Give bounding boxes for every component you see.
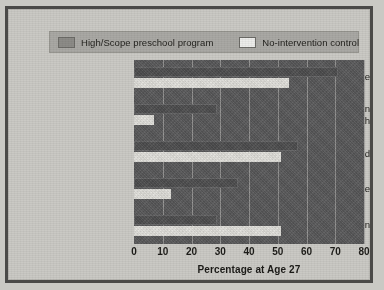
legend-entry-control: No-intervention control bbox=[239, 37, 359, 48]
x-tick-label: 80 bbox=[358, 246, 369, 257]
bar-program bbox=[134, 178, 238, 188]
x-tick-label: 60 bbox=[301, 246, 312, 257]
x-tick-label: 10 bbox=[157, 246, 168, 257]
x-tick-label: 50 bbox=[272, 246, 283, 257]
bar-control bbox=[134, 189, 171, 199]
bar-group bbox=[134, 134, 364, 171]
bar-control bbox=[134, 226, 281, 236]
gridline bbox=[364, 60, 365, 244]
chart-legend: High/Scope preschool program No-interven… bbox=[49, 31, 359, 53]
chart-figure: High/Scope preschool program No-interven… bbox=[0, 0, 384, 290]
x-tick-label: 20 bbox=[186, 246, 197, 257]
bar-group bbox=[134, 170, 364, 207]
bar-program bbox=[134, 215, 217, 225]
bar-program bbox=[134, 67, 338, 77]
bar-control bbox=[134, 78, 289, 88]
x-axis-ticks: 01020304050607080 bbox=[134, 246, 364, 260]
chart-frame: High/Scope preschool program No-interven… bbox=[5, 6, 373, 283]
plot-area bbox=[134, 60, 364, 244]
bar-program bbox=[134, 104, 217, 114]
bar-group bbox=[134, 97, 364, 134]
legend-label-control: No-intervention control bbox=[262, 37, 359, 48]
x-axis-label: Percentage at Age 27 bbox=[134, 264, 364, 275]
bar-group bbox=[134, 207, 364, 244]
bar-program bbox=[134, 141, 298, 151]
bar-control bbox=[134, 152, 281, 162]
bar-group bbox=[134, 60, 364, 97]
legend-swatch-program-icon bbox=[58, 37, 75, 48]
x-tick-label: 40 bbox=[243, 246, 254, 257]
legend-label-program: High/Scope preschool program bbox=[81, 37, 213, 48]
x-tick-label: 30 bbox=[215, 246, 226, 257]
legend-entry-program: High/Scope preschool program bbox=[58, 37, 213, 48]
bar-control bbox=[134, 115, 154, 125]
legend-swatch-control-icon bbox=[239, 37, 256, 48]
x-tick-label: 70 bbox=[330, 246, 341, 257]
x-tick-label: 0 bbox=[131, 246, 137, 257]
